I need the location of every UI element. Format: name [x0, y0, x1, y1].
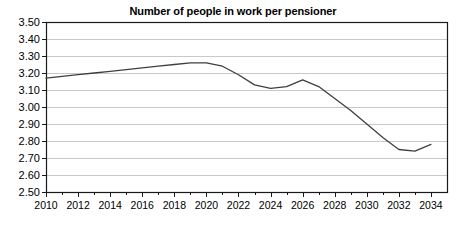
y-axis-label: 3.30: [0, 51, 40, 62]
y-axis-label: 3.40: [0, 34, 40, 45]
x-axis-label: 2028: [323, 200, 346, 211]
grid-lines: [46, 40, 447, 176]
y-axis-label: 2.60: [0, 170, 40, 181]
x-axis-label: 2012: [66, 200, 89, 211]
y-axis-label: 2.70: [0, 153, 40, 164]
y-axis-label: 3.10: [0, 85, 40, 96]
y-axis-label: 3.50: [0, 17, 40, 28]
y-axis-label: 3.00: [0, 102, 40, 113]
x-axis-label: 2030: [355, 200, 378, 211]
y-axis-label: 2.80: [0, 136, 40, 147]
x-axis-label: 2034: [419, 200, 442, 211]
x-axis-label: 2016: [131, 200, 154, 211]
y-axis-label: 2.90: [0, 119, 40, 130]
chart-svg: [0, 0, 466, 227]
y-axis-label: 2.50: [0, 187, 40, 198]
x-axis-label: 2032: [387, 200, 410, 211]
y-axis-ticks: [42, 23, 46, 193]
chart-container: Number of people in work per pensioner 3…: [0, 0, 466, 227]
x-axis-label: 2024: [259, 200, 282, 211]
y-axis-label: 3.20: [0, 68, 40, 79]
plot-area: [0, 0, 466, 227]
x-axis-label: 2026: [291, 200, 314, 211]
x-axis-label: 2018: [163, 200, 186, 211]
x-axis-label: 2010: [34, 200, 57, 211]
x-axis-label: 2022: [227, 200, 250, 211]
x-axis-label: 2014: [98, 200, 121, 211]
x-axis-label: 2020: [195, 200, 218, 211]
